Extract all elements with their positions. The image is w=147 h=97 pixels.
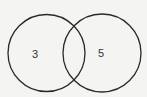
right-set-count: 5: [98, 47, 104, 59]
venn-diagram: 3 5: [0, 0, 147, 97]
left-set-count: 3: [32, 48, 38, 60]
